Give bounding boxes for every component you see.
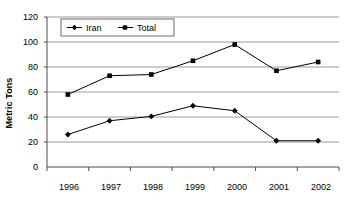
chart-legend: Iran Total	[61, 19, 174, 36]
x-axis-tick-marks	[47, 167, 339, 171]
data-point-iran-1996	[65, 132, 71, 138]
data-point-total-1999	[191, 58, 196, 63]
series-iran	[65, 103, 321, 144]
data-point-total-1996	[66, 92, 71, 97]
data-point-total-1998	[149, 72, 154, 77]
series-line-total	[68, 45, 318, 95]
data-point-iran-1999	[190, 103, 196, 109]
legend-label-total: Total	[137, 23, 156, 33]
legend-label-iran: Iran	[86, 23, 102, 33]
data-series-layer	[65, 42, 321, 143]
series-total	[66, 42, 321, 97]
series-line-iran	[68, 106, 318, 141]
data-point-total-2000	[232, 42, 237, 47]
plot-area: Iran Total	[0, 0, 345, 210]
data-point-iran-2002	[315, 138, 321, 144]
data-point-iran-1997	[107, 118, 113, 124]
square-icon	[123, 25, 127, 29]
line-chart: Metric Tons 120 100 80 60 40 20 0 1996 1…	[0, 0, 345, 210]
data-point-total-2001	[274, 68, 279, 73]
data-point-iran-1998	[148, 113, 154, 119]
data-point-total-1997	[107, 73, 112, 78]
data-point-total-2002	[316, 60, 321, 65]
